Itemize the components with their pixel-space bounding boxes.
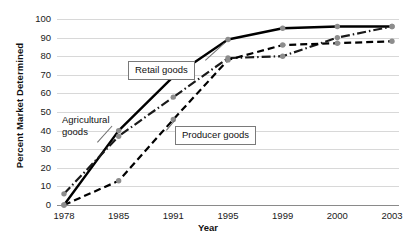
x-axis-title: Year bbox=[0, 222, 416, 233]
x-axis-tick-label: 1985 bbox=[108, 211, 129, 221]
data-point bbox=[225, 57, 230, 62]
series-line-producer-goods bbox=[64, 41, 392, 205]
data-point bbox=[280, 42, 285, 47]
data-point bbox=[335, 35, 340, 40]
data-point bbox=[280, 26, 285, 31]
data-point bbox=[389, 39, 394, 44]
y-axis-tick-label: 40 bbox=[17, 126, 51, 136]
annotation-retail-goods: Retail goods bbox=[128, 61, 195, 80]
data-point bbox=[389, 24, 394, 29]
data-series-layer bbox=[57, 19, 399, 205]
x-axis-tick-label: 2003 bbox=[381, 211, 402, 221]
grid-line bbox=[57, 205, 399, 206]
y-axis-tick-label: 100 bbox=[17, 14, 51, 24]
data-point bbox=[225, 37, 230, 42]
data-point bbox=[116, 133, 121, 138]
annotation-producer-goods: Producer goods bbox=[175, 126, 256, 145]
data-point bbox=[61, 202, 66, 207]
data-point bbox=[61, 191, 66, 196]
y-axis-tick-label: 60 bbox=[17, 88, 51, 98]
y-axis-title: Percent Market Determined bbox=[14, 26, 25, 186]
x-axis-tick-label: 1978 bbox=[53, 211, 74, 221]
series-line-agricultural-goods bbox=[64, 26, 392, 193]
y-axis-tick-label: 70 bbox=[17, 70, 51, 80]
series-line-retail-goods bbox=[64, 26, 392, 205]
plot-area: 0102030405060708090100 19781985199119951… bbox=[57, 19, 399, 205]
y-axis-tick-label: 50 bbox=[17, 107, 51, 117]
x-axis-tick-label: 1991 bbox=[163, 211, 184, 221]
x-axis-tick-label: 2000 bbox=[327, 211, 348, 221]
x-axis-tick-label: 1995 bbox=[217, 211, 238, 221]
data-point bbox=[280, 54, 285, 59]
x-axis-tick-label: 1999 bbox=[272, 211, 293, 221]
annotation-agricultural-goods-line1: Agricultural bbox=[62, 114, 110, 126]
data-point bbox=[116, 128, 121, 133]
y-axis-tick-label: 0 bbox=[17, 200, 51, 210]
data-point bbox=[171, 94, 176, 99]
y-axis-tick-label: 10 bbox=[17, 181, 51, 191]
y-axis-tick-label: 80 bbox=[17, 51, 51, 61]
data-point bbox=[335, 40, 340, 45]
chart-container: Percent Market Determined Year 010203040… bbox=[0, 0, 416, 244]
data-point bbox=[116, 178, 121, 183]
y-axis-tick-label: 90 bbox=[17, 33, 51, 43]
y-axis-tick-label: 30 bbox=[17, 144, 51, 154]
y-axis-tick-label: 20 bbox=[17, 163, 51, 173]
data-point bbox=[335, 24, 340, 29]
